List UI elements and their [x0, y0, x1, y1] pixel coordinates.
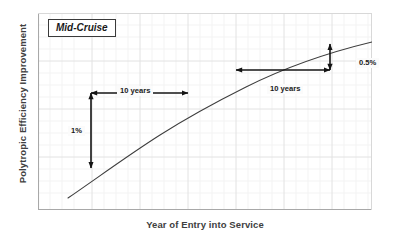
y-axis-label: Polytropic Efficiency Improvement	[17, 4, 28, 204]
mid-cruise-callout: Mid-Cruise	[48, 19, 116, 37]
plot-svg	[38, 13, 372, 210]
plot-area	[38, 13, 372, 210]
grid-minor	[38, 13, 372, 210]
ten-years-right-label: 10 years	[267, 84, 303, 94]
grid-major	[38, 13, 372, 210]
x-axis-label: Year of Entry into Service	[38, 219, 372, 230]
chart-figure: Polytropic Efficiency Improvement Year o…	[0, 0, 400, 235]
annotation-right	[236, 44, 330, 70]
trend-curve	[68, 42, 372, 198]
one-percent-label: 1%	[68, 126, 85, 136]
plot-frame	[38, 13, 372, 210]
half-percent-label: 0.5%	[356, 58, 379, 68]
ten-years-left-label: 10 years	[117, 86, 153, 96]
